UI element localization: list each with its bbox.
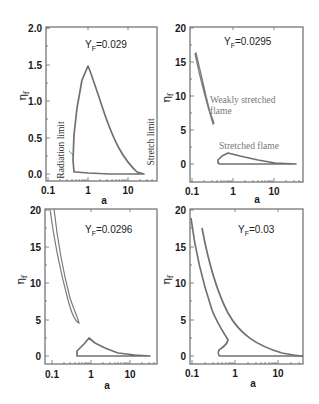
x-tick-label: 1 — [88, 369, 94, 380]
panel-bottom-right: 20 15 10 5 0 0.1 1 10 a ηf YF=0.03 — [160, 205, 303, 389]
panel-title: YF=0.0296 — [85, 224, 133, 237]
x-axis-label: a — [254, 194, 260, 205]
x-tick-label: 0.1 — [185, 186, 199, 197]
y-tick-label: 15 — [30, 242, 42, 253]
x-tick-label: 10 — [268, 186, 280, 197]
y-tick-label: 15 — [175, 57, 187, 68]
x-tick-labels: 0.1 1 10 — [45, 369, 136, 380]
figure-2x2-panels: 2.0 1.5 1.0 0.5 0.0 0.1 1 10 a ηf YF=0.0… — [0, 0, 319, 404]
y-tick-label: 10 — [175, 278, 187, 289]
y-tick-label: 0.0 — [28, 169, 42, 180]
y-tick-label: 5 — [35, 315, 41, 326]
y-tick-label: 20 — [30, 205, 42, 216]
y-tick-labels: 20 15 10 5 0 — [30, 205, 42, 362]
outer-curve — [202, 228, 303, 356]
y-tick-labels: 20 15 10 5 0 — [175, 205, 187, 362]
panel-title: YF=0.0295 — [224, 36, 272, 49]
y-tick-label: 20 — [175, 23, 187, 34]
y-tick-label: 10 — [175, 91, 187, 102]
x-tick-label: 0.1 — [185, 368, 199, 379]
panel-bottom-left: 20 15 10 5 0 0.1 1 10 a ηf YF=0.0296 — [14, 205, 157, 391]
y-tick-label: 0 — [35, 351, 41, 362]
panel-top-left: 2.0 1.5 1.0 0.5 0.0 0.1 1 10 a ηf YF=0.0… — [16, 23, 157, 206]
x-tick-label: 10 — [124, 369, 136, 380]
y-tick-label: 10 — [30, 278, 42, 289]
annotation-radiation-limit: Radiation limit — [56, 121, 66, 179]
y-tick-label: 1.5 — [28, 60, 42, 71]
x-tick-label: 0.1 — [41, 185, 55, 196]
annotation-weakly-stretched: Weakly stretched — [210, 95, 276, 105]
y-tick-label: 20 — [175, 205, 187, 216]
x-tick-labels: 0.1 1 10 — [41, 185, 134, 196]
x-tick-labels: 0.1 1 10 — [185, 186, 280, 197]
y-axis-label: ηf — [16, 90, 31, 101]
y-tick-labels: 20 15 10 5 0 — [175, 23, 187, 170]
y-tick-label: 1.0 — [28, 96, 42, 107]
annotation-stretch-limit: Stretch limit — [146, 118, 156, 166]
annotation-flame: flame — [210, 106, 232, 116]
x-tick-label: 10 — [122, 185, 134, 196]
y-tick-label: 0 — [180, 159, 186, 170]
x-axis-label: a — [250, 378, 256, 389]
y-axis-label: ηf — [160, 274, 175, 285]
y-tick-label: 2.0 — [28, 23, 42, 34]
y-axis-label: ηf — [160, 92, 175, 103]
x-tick-label: 1 — [230, 186, 236, 197]
x-axis-label: a — [101, 195, 107, 206]
x-tick-labels: 0.1 1 10 — [185, 368, 284, 379]
x-tick-label: 10 — [272, 368, 284, 379]
y-tick-label: 0 — [180, 351, 186, 362]
panel-top-right: 20 15 10 5 0 0.1 1 10 a ηf YF=0.0295 Wea… — [160, 23, 303, 205]
y-tick-labels: 2.0 1.5 1.0 0.5 0.0 — [28, 23, 42, 180]
x-tick-label: 0.1 — [45, 369, 59, 380]
y-axis-label: ηf — [14, 274, 29, 285]
closed-c-curve — [73, 66, 144, 174]
x-tick-label: 1 — [232, 368, 238, 379]
panel-title: YF=0.03 — [238, 224, 275, 237]
x-tick-label: 1 — [85, 185, 91, 196]
stretched-flame-branch — [218, 153, 296, 164]
upper-branch — [50, 209, 79, 323]
y-tick-label: 15 — [175, 242, 187, 253]
y-tick-label: 5 — [180, 315, 186, 326]
annotation-stretched-flame: Stretched flame — [219, 141, 279, 151]
y-tick-label: 5 — [180, 125, 186, 136]
annotation-pointer — [69, 151, 73, 155]
panel-title: YF=0.029 — [85, 39, 127, 52]
lower-closed-branch — [77, 338, 150, 356]
y-axis-ticks — [190, 28, 194, 164]
y-tick-label: 0.5 — [28, 133, 42, 144]
x-axis-label: a — [104, 380, 110, 391]
